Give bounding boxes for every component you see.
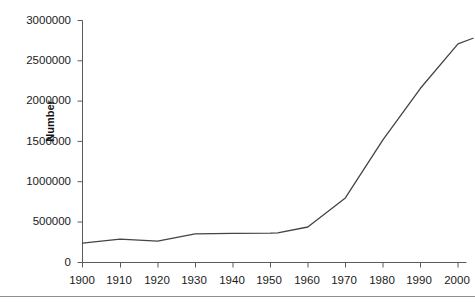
plot-area [0, 0, 475, 308]
data-series-line [83, 38, 474, 243]
y-axis-ticks [78, 21, 83, 263]
x-axis-ticks [83, 263, 459, 268]
page-bottom-rule [0, 296, 475, 297]
line-chart-figure: Number 3000000 2500000 2000000 1500000 1… [0, 0, 475, 308]
